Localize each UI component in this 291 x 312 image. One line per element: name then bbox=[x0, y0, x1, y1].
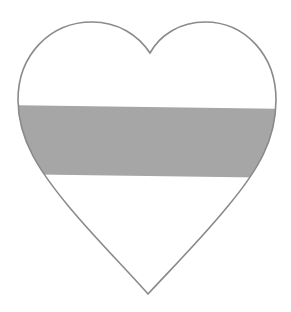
heart-graphic bbox=[0, 0, 291, 312]
heart-svg bbox=[0, 0, 291, 312]
gray-band bbox=[0, 105, 291, 178]
